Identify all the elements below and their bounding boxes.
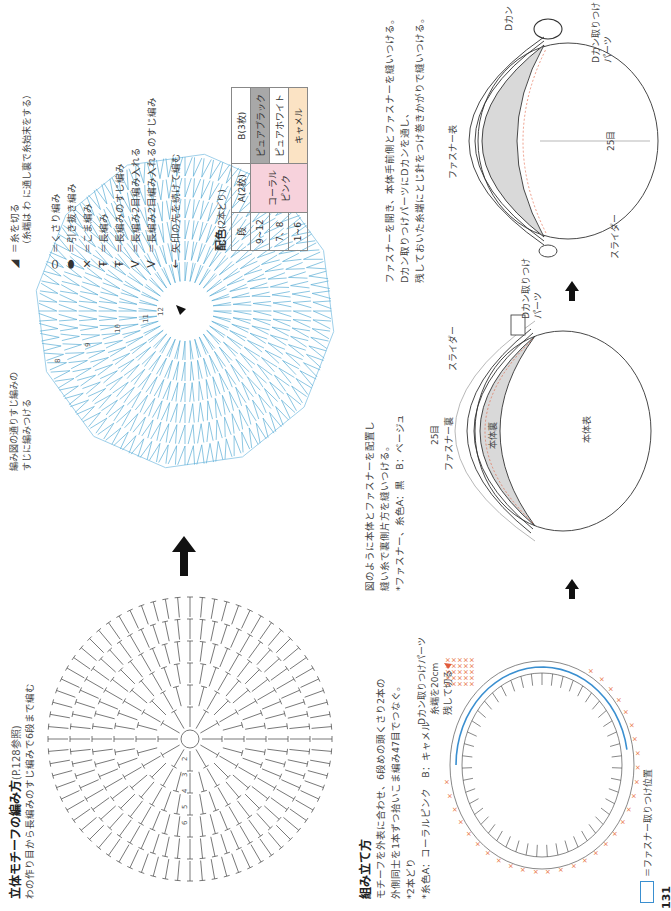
- svg-text:×: ×: [628, 722, 636, 728]
- page-number: 131: [660, 886, 671, 909]
- svg-text:×: ×: [495, 858, 503, 864]
- svg-text:×: ×: [507, 863, 515, 869]
- svg-text:×: ×: [468, 663, 476, 669]
- arrow-right-icon: [172, 536, 196, 576]
- gray-motif-chart: 23456: [40, 589, 340, 889]
- svg-text:×: ×: [570, 863, 578, 869]
- color-table: 段 A(2枚) B(3枚) 9~12 コーラル ピンク ピュアブラック 7、8 …: [231, 87, 308, 251]
- legend-item-double-back-loop: Ŧ ＝長編みのすじ編み: [111, 11, 127, 271]
- svg-text:×: ×: [465, 831, 473, 837]
- arrow-continue-icon: ←: [169, 257, 182, 271]
- legend-item-chain: ⬭ ＝くさり編み: [47, 11, 63, 271]
- magic-ring-icon: [181, 730, 199, 748]
- finished-bag-diagram: [440, 1, 670, 281]
- color-table-header: 段 A(2枚) B(3枚): [232, 88, 251, 251]
- svg-text:×: ×: [587, 668, 595, 674]
- motif-subtitle: わの作り目から長編みのすじ編みで6段まで編む: [22, 683, 37, 899]
- svg-text:×: ×: [544, 869, 552, 875]
- arrow-right-icon: [565, 281, 579, 301]
- motif-title-ref: (P.128参照): [11, 725, 22, 780]
- motif-section-title: 立体モチーフの編み方(P.128参照): [6, 725, 23, 899]
- svg-text:2: 2: [181, 757, 189, 761]
- svg-text:×: ×: [622, 709, 630, 715]
- d-ring-label: Dカン: [502, 6, 515, 31]
- svg-text:×: ×: [592, 850, 600, 856]
- double-crochet-increase-back-loop-icon: V: [145, 257, 158, 271]
- svg-text:8: 8: [54, 359, 62, 363]
- svg-text:×: ×: [598, 676, 606, 682]
- stitch-legend: ◢ ＝糸を切る （糸端は わ に通し裏で糸始末をする） ⬭ ＝くさり編み ⬬ ＝…: [6, 11, 183, 271]
- double-crochet-back-loop-icon: Ŧ: [113, 257, 126, 271]
- slip-stitch-icon: ⬬: [65, 257, 78, 271]
- color-cell-pure-white: ピュアホワイト: [270, 88, 289, 164]
- zipper-step-25-label: 25目: [428, 425, 441, 445]
- cut-yarn-icon: ◢: [8, 257, 21, 271]
- svg-text:3: 3: [181, 773, 189, 777]
- svg-text:×: ×: [557, 867, 565, 873]
- svg-text:×: ×: [602, 841, 610, 847]
- svg-text:×: ×: [519, 867, 527, 873]
- svg-text:×: ×: [457, 819, 465, 825]
- svg-text:×: ×: [468, 657, 476, 663]
- slider-icon: [539, 245, 557, 257]
- blue-chart-note-line1: 編み図の通りすじ編みの: [8, 372, 21, 471]
- color-table-title: 配色(2本どり): [212, 87, 228, 251]
- svg-text:5: 5: [181, 805, 189, 809]
- double-crochet-icon: Ŧ: [97, 257, 110, 271]
- arrow-right-icon: [565, 579, 579, 599]
- svg-text:×: ×: [615, 697, 623, 703]
- svg-text:×: ×: [468, 669, 476, 675]
- final-d-ring-part-label: Dカン取りつけ パーツ: [590, 2, 614, 63]
- body-outside-shape: [475, 331, 651, 531]
- svg-text:4: 4: [181, 788, 189, 793]
- final-step-25-label: 25目: [604, 131, 617, 151]
- d-ring-icon: [534, 19, 562, 39]
- svg-text:×: ×: [625, 807, 633, 813]
- d-ring-part-label: Dカン取りつけパーツ 糸端を20cm 残して切る: [416, 637, 455, 725]
- svg-text:×: ×: [631, 736, 639, 742]
- legend-item-arrow: ← 矢印の先を続けて編む: [167, 11, 183, 271]
- svg-text:×: ×: [451, 807, 459, 813]
- svg-text:9: 9: [84, 343, 92, 347]
- motif-title-text: 立体モチーフの編み方: [9, 780, 23, 899]
- zipper-back-label: ファスナー裏: [442, 417, 455, 471]
- chain-stitch-icon: ⬭: [49, 257, 62, 271]
- svg-text:×: ×: [634, 750, 642, 756]
- final-slider-label: スライダー: [608, 214, 621, 259]
- body-outside-label: 本体表: [580, 416, 593, 443]
- svg-text:×: ×: [446, 793, 454, 799]
- svg-text:×: ×: [532, 869, 540, 875]
- svg-text:×: ×: [607, 686, 615, 692]
- legend-item-single: ✕ ＝こま編み: [79, 11, 95, 271]
- svg-text:×: ×: [474, 841, 482, 847]
- body-inside-label: 本体裏: [486, 422, 499, 449]
- slider-label: スライダー: [446, 326, 459, 371]
- svg-text:×: ×: [468, 675, 476, 681]
- zipper-step-text: 図のように本体とファスナーを配置し 縫い糸で裏側片方を縫いつける。 *ファスナー…: [362, 414, 407, 591]
- zipper-front-label: ファスナー表: [446, 125, 459, 179]
- legend-item-double-increase-back-loop: V ＝長編み2目編み入れるのすじ編み: [143, 11, 159, 271]
- zipper-position-swatch-icon: [640, 881, 654, 903]
- color-cell-pure-black: ピュアブラック: [251, 88, 270, 164]
- svg-text:10: 10: [114, 324, 122, 333]
- svg-text:×: ×: [443, 779, 451, 785]
- single-crochet-icon: ✕: [81, 257, 94, 271]
- start-marker-icon: [176, 305, 186, 315]
- zipper-position-legend: ＝ファスナー取りつけ位置: [640, 769, 654, 903]
- legend-cut-yarn-note: （糸端は わ に通し裏で糸始末をする）: [20, 11, 33, 271]
- zipper-placement-diagram: [425, 301, 665, 581]
- legend-item-double: Ŧ ＝長編み: [95, 11, 111, 271]
- color-cell-coral-pink: コーラル ピンク: [251, 164, 308, 213]
- final-step-text: ファスナーを開き、本体手前側とファスナーを縫いつける。 Dカン取りつけパーツにD…: [382, 13, 427, 283]
- color-cell-camel: キャメル: [289, 88, 308, 164]
- svg-text:×: ×: [484, 850, 492, 856]
- pattern-page: 立体モチーフの編み方(P.128参照) わの作り目から長編みのすじ編みで6段まで…: [0, 0, 671, 911]
- assembly-title: 組み立て方: [356, 678, 373, 899]
- svg-text:11: 11: [142, 314, 150, 323]
- color-table-block: 配色(2本どり) 段 A(2枚) B(3枚) 9~12 コーラル ピンク ピュア…: [212, 87, 308, 251]
- color-table-row: 9~12 コーラル ピンク ピュアブラック: [251, 88, 270, 251]
- legend-item-double-increase: V ＝長編み2目編み入れる: [127, 11, 143, 271]
- svg-text:×: ×: [630, 793, 638, 799]
- assembly-ring-chart: ××××××××××××××××××××××××××××××× ××××××××…: [430, 605, 670, 905]
- legend-item-slip: ⬬ ＝引き抜き編み: [63, 11, 79, 271]
